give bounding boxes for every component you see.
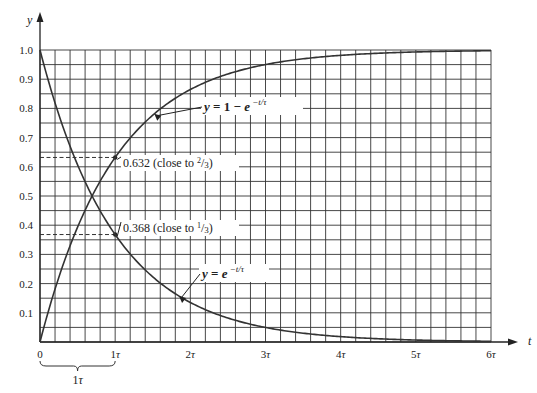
y-tick-label: 0.1 xyxy=(19,307,33,319)
y-tick-label: 0.7 xyxy=(19,132,33,144)
y-tick-label: 0.6 xyxy=(19,161,33,173)
y-axis-label: y xyxy=(26,13,33,27)
one-tau-brace: 1τ xyxy=(40,361,115,387)
brace-label: 1τ xyxy=(72,373,83,387)
x-axis-label: t xyxy=(528,334,532,348)
y-tick-label: 0.4 xyxy=(19,219,33,231)
x-tick-label: 1τ xyxy=(110,348,121,360)
x-tick-label: 6τ xyxy=(486,348,497,360)
x-tick-label: 4τ xyxy=(336,348,347,360)
y-axis-arrow-icon xyxy=(37,12,44,22)
y-tick-label: 0.3 xyxy=(19,248,33,260)
x-tick-label: 2τ xyxy=(186,348,197,360)
grid xyxy=(40,50,491,342)
x-axis-arrow-icon xyxy=(508,339,518,346)
time-constant-chart: y t 0.10.20.30.40.50.60.70.80.91.0 01τ2τ… xyxy=(0,0,537,393)
brace-icon xyxy=(40,361,115,371)
x-tick-label: 3τ xyxy=(261,348,272,360)
y-tick-label: 0.5 xyxy=(19,190,33,202)
y-tick-label: 0.2 xyxy=(19,278,33,290)
y-tick-label: 1.0 xyxy=(19,44,33,56)
y-tick-label: 0.8 xyxy=(19,102,33,114)
x-tick-label: 5τ xyxy=(411,348,422,360)
x-tick-label: 0 xyxy=(37,348,43,360)
y-tick-label: 0.9 xyxy=(19,73,33,85)
y-tick-labels: 0.10.20.30.40.50.60.70.80.91.0 xyxy=(19,44,33,319)
x-tick-labels: 01τ2τ3τ4τ5τ6τ xyxy=(37,348,497,360)
